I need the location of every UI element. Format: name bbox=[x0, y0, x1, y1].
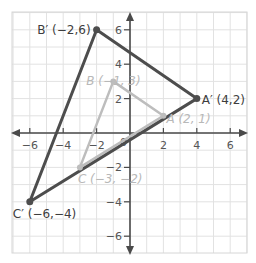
coordinate-plane: −6−4−2246642−2−4−6 0 A′ (4,2)B′ (−2,6)C′… bbox=[0, 0, 256, 263]
vertex-label-c-prime: C′ (−6,−4) bbox=[13, 207, 76, 221]
x-tick-label: 2 bbox=[160, 139, 167, 152]
vertex-point-c-prime bbox=[26, 198, 33, 205]
vertex-label-c: C (−3, −2) bbox=[78, 172, 143, 186]
x-tick-label: −6 bbox=[22, 139, 38, 152]
y-tick-label: −4 bbox=[106, 196, 122, 209]
vertex-label-a: A (2, 1) bbox=[165, 112, 210, 126]
vertex-point-a-prime bbox=[193, 95, 200, 102]
x-tick-label: 6 bbox=[227, 139, 234, 152]
x-tick-label: 4 bbox=[193, 139, 200, 152]
vertex-point-b-prime bbox=[93, 26, 100, 33]
x-tick-label: −4 bbox=[55, 139, 71, 152]
vertex-label-b-prime: B′ (−2,6) bbox=[37, 23, 90, 37]
y-tick-label: −6 bbox=[106, 230, 122, 243]
y-tick-label: 6 bbox=[115, 24, 122, 37]
y-tick-label: 2 bbox=[115, 93, 122, 106]
vertex-point-c bbox=[77, 164, 83, 170]
vertex-label-a-prime: A′ (4,2) bbox=[202, 93, 245, 107]
y-axis-up-arrow-icon bbox=[126, 12, 134, 21]
vertex-label-b: B (−1, 3) bbox=[86, 74, 140, 88]
y-tick-label: 4 bbox=[115, 58, 122, 71]
y-axis-down-arrow-icon bbox=[126, 246, 134, 255]
